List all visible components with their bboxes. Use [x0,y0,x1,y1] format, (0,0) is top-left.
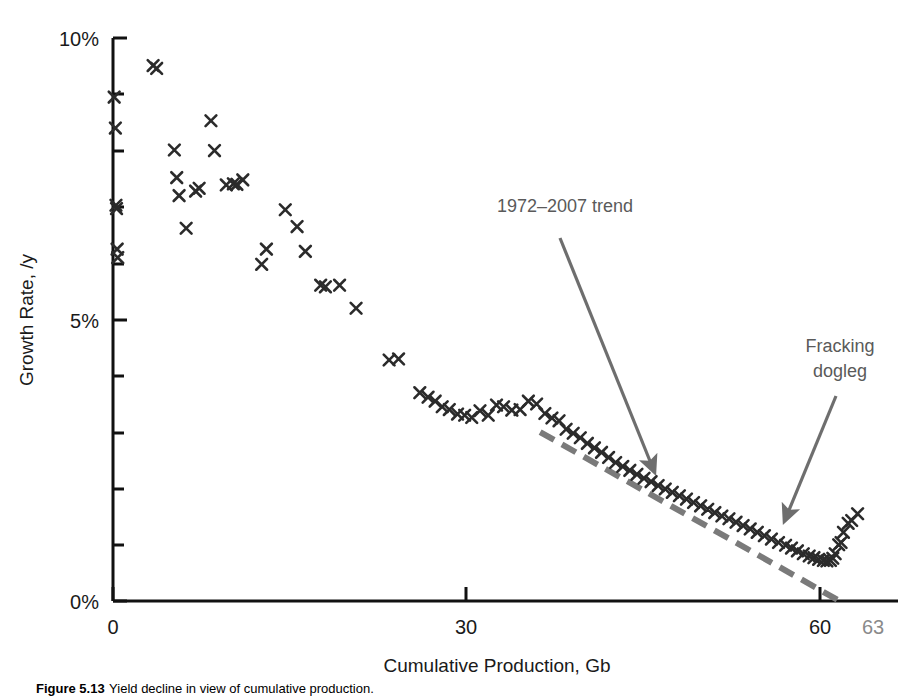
y-axis-title: Growth Rate, /y [16,254,37,386]
data-point-marker [256,259,267,270]
trend-annotation: 1972–2007 trend [497,196,652,466]
data-point-marker [151,63,162,74]
x-tick-label-30: 30 [455,616,477,638]
axes-group [113,38,898,601]
y-tick-label-10pct: 10% [59,28,99,50]
dogleg-annotation-label-line2: dogleg [813,361,867,381]
data-point-marker [393,354,404,365]
data-point-marker [206,115,217,126]
data-point-marker [852,508,863,519]
data-point-marker [169,145,180,156]
dogleg-annotation-label-line1: Fracking [805,336,874,356]
dogleg-annotation: Fracking dogleg [787,336,875,515]
data-point-marker [171,172,182,183]
x-tick-label-60: 60 [809,616,831,638]
data-point-marker [300,246,311,257]
data-point-group [109,60,863,566]
data-point-marker [209,145,220,156]
data-point-marker [181,223,192,234]
data-point-marker [334,280,345,291]
x-ticks-group [113,587,820,601]
x-axis-title: Cumulative Production, Gb [383,655,610,676]
data-point-marker [174,190,185,201]
x-tick-label-63: 63 [862,616,884,638]
x-tick-label-0: 0 [107,616,118,638]
y-tick-label-0pct: 0% [70,591,99,613]
trend-dashed-line [540,432,844,604]
figure-caption-number: Figure 5.13 [36,681,105,696]
trend-annotation-label: 1972–2007 trend [497,196,633,216]
y-tick-label-5pct: 5% [70,310,99,332]
figure-caption: Figure 5.13 Yield decline in view of cum… [36,679,896,697]
data-point-marker [292,221,303,232]
figure-caption-text: Yield decline in view of cumulative prod… [109,681,374,696]
data-point-marker [194,183,205,194]
dogleg-annotation-arrow [787,396,836,515]
data-point-marker [280,204,291,215]
data-point-marker [261,244,272,255]
data-point-marker [351,303,362,314]
